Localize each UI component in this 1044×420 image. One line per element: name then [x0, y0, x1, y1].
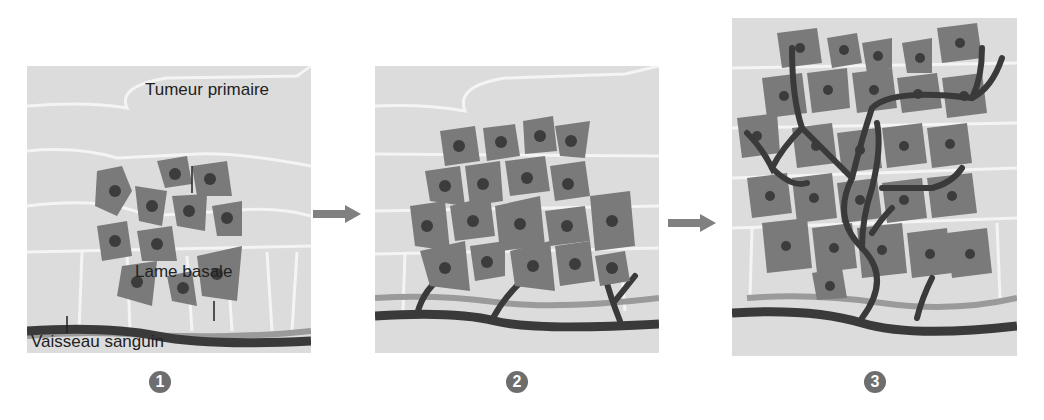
label-tumor: Tumeur primaire: [145, 80, 269, 100]
panel-3-tumor-vascularization: [732, 18, 1017, 356]
arrow-right-icon: [668, 214, 718, 232]
tissue-illustration-3: [732, 18, 1017, 356]
panel-2-early-angiogenesis: [375, 66, 659, 353]
stage-number-2: 2: [506, 371, 528, 393]
stage-number-1: 1: [149, 371, 171, 393]
label-basal-lamina: Lame basale: [135, 262, 232, 282]
label-blood-vessel: Vaisseau sanguin: [31, 332, 164, 352]
stage-number-3: 3: [864, 371, 886, 393]
tissue-illustration-2: [375, 66, 659, 353]
arrow-right-icon: [313, 205, 363, 223]
panel-1-primary-tumor: Tumeur primaire Lame basale Vaisseau san…: [27, 66, 311, 353]
tissue-illustration-1: [27, 66, 311, 353]
